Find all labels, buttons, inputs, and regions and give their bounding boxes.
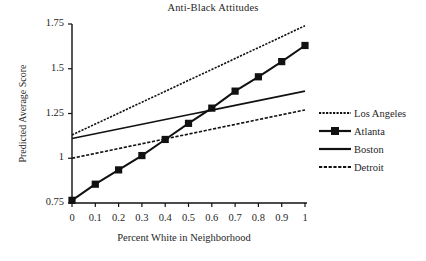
legend-label: Detroit — [352, 162, 384, 173]
legend-key-icon — [318, 106, 352, 120]
series-line-detroit — [72, 110, 305, 158]
legend-item: Boston — [318, 140, 426, 158]
x-tick-label: 0.3 — [129, 212, 155, 223]
y-tick-label: 0.75 — [30, 196, 64, 207]
series-marker-atlanta — [185, 120, 192, 127]
x-tick-label: 0 — [59, 212, 85, 223]
legend-key-icon — [318, 142, 352, 156]
chart-legend: Los AngelesAtlantaBostonDetroit — [318, 104, 426, 176]
y-tick-label: 1.5 — [30, 62, 64, 73]
series-marker-atlanta — [255, 73, 262, 80]
series-marker-atlanta — [278, 58, 285, 65]
series-marker-atlanta — [92, 181, 99, 188]
series-marker-atlanta — [115, 166, 122, 173]
legend-item: Los Angeles — [318, 104, 426, 122]
series-line-los-angeles — [72, 26, 305, 135]
legend-key-icon — [318, 160, 352, 174]
y-tick-label: 1 — [30, 151, 64, 162]
y-tick-label: 1.75 — [30, 17, 64, 28]
x-tick-label: 0.1 — [82, 212, 108, 223]
series-line-boston — [72, 91, 305, 138]
x-tick-label: 0.6 — [199, 212, 225, 223]
series-marker-atlanta — [68, 197, 75, 204]
legend-key-icon — [318, 124, 352, 138]
x-tick-label: 1 — [292, 212, 318, 223]
series-marker-atlanta — [138, 152, 145, 159]
series-marker-atlanta — [232, 88, 239, 95]
x-tick-label: 0.2 — [106, 212, 132, 223]
x-tick-label: 0.7 — [222, 212, 248, 223]
legend-label: Atlanta — [352, 126, 385, 137]
x-tick-label: 0.5 — [176, 212, 202, 223]
x-tick-label: 0.9 — [269, 212, 295, 223]
x-tick-label: 0.8 — [245, 212, 271, 223]
chart-figure: Anti-Black Attitudes Predicted Average S… — [0, 0, 426, 261]
y-tick-label: 1.25 — [30, 107, 64, 118]
legend-label: Boston — [352, 144, 384, 155]
x-tick-label: 0.4 — [152, 212, 178, 223]
legend-item: Atlanta — [318, 122, 426, 140]
legend-label: Los Angeles — [352, 108, 406, 119]
series-marker-atlanta — [301, 42, 308, 49]
legend-item: Detroit — [318, 158, 426, 176]
